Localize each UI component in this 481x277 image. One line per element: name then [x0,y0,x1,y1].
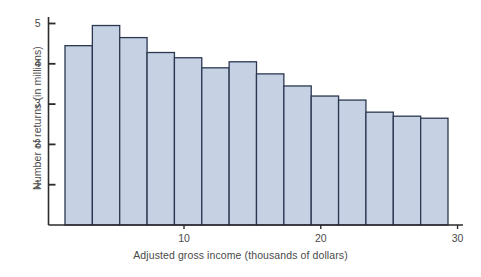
histogram-bar [393,116,420,225]
histogram-bar [65,46,92,225]
histogram-bar [92,26,119,225]
histogram-bar [174,58,201,225]
histogram-bar [257,74,284,225]
x-tick-label: 30 [438,232,478,244]
x-tick-label: 20 [301,232,341,244]
histogram-bar [366,112,393,225]
x-axis-title: Adjusted gross income (thousands of doll… [0,249,481,261]
histogram-bar [284,86,311,225]
histogram-bar [147,53,174,225]
histogram-bar [311,96,338,225]
histogram-bar [421,118,448,225]
histogram-bar [202,68,229,225]
bar-group [65,26,448,225]
x-tick-label: 10 [164,232,204,244]
histogram-bar [229,62,256,225]
histogram-bar [339,100,366,225]
plot-area [0,0,481,277]
histogram-bar [120,38,147,225]
histogram-figure: Number of returns (in millions) 12345 10… [0,0,481,277]
